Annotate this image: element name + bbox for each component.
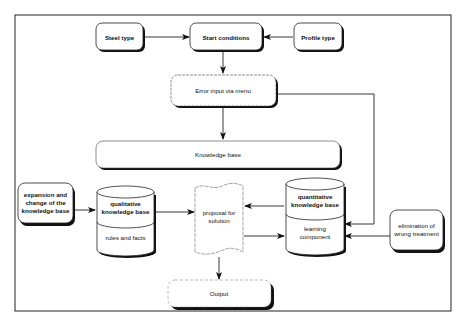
error-input-label: Error input via menu bbox=[195, 87, 251, 94]
quantitative-kb-line-1: quantitative bbox=[298, 193, 333, 200]
node-qualitative-kb: qualitative knowledge base rules and fac… bbox=[97, 186, 156, 258]
node-steel-type: Steel type bbox=[96, 23, 145, 52]
qualitative-kb-line-1: qualitative bbox=[110, 200, 141, 207]
flow-diagram: Steel type Start conditions Profile type… bbox=[0, 0, 459, 329]
steel-type-label: Steel type bbox=[105, 34, 135, 41]
start-conditions-label: Start conditions bbox=[202, 34, 250, 41]
expansion-line-3: knowledge base bbox=[22, 207, 70, 214]
output-label: Output bbox=[210, 290, 229, 297]
node-quantitative-kb: quantitative knowledge base learning com… bbox=[286, 178, 346, 257]
proposal-line-1: proposal for bbox=[203, 209, 236, 216]
learning-component-line-1: learning bbox=[304, 225, 327, 232]
expansion-line-1: expansion and bbox=[24, 191, 68, 198]
quantitative-kb-line-2: knowledge base bbox=[291, 201, 339, 208]
node-knowledge-base: Knowledge base bbox=[96, 141, 342, 170]
node-start-conditions: Start conditions bbox=[190, 23, 264, 52]
node-expansion: expansion and change of the knowledge ba… bbox=[18, 183, 75, 226]
qualitative-kb-line-2: knowledge base bbox=[102, 208, 150, 215]
profile-type-label: Profile type bbox=[301, 34, 335, 41]
proposal-line-2: solution bbox=[208, 217, 230, 224]
knowledge-base-label: Knowledge base bbox=[195, 151, 241, 158]
node-elimination: elimination of wrong treatment bbox=[390, 210, 445, 253]
elimination-line-1: elimination of bbox=[398, 222, 435, 229]
expansion-line-2: change of the bbox=[25, 199, 66, 206]
rules-and-facts-label: rules and facts bbox=[105, 234, 145, 241]
node-proposal: proposal for solution bbox=[195, 183, 243, 254]
node-error-input: Error input via menu bbox=[171, 75, 278, 108]
learning-component-line-2: component bbox=[300, 233, 331, 240]
node-profile-type: Profile type bbox=[294, 23, 344, 52]
elimination-line-2: wrong treatment bbox=[393, 230, 439, 237]
node-output: Output bbox=[168, 280, 274, 310]
